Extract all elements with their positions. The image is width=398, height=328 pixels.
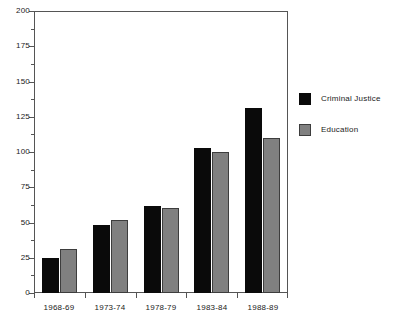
bar-criminal-justice bbox=[144, 206, 161, 293]
bar-criminal-justice bbox=[42, 258, 59, 293]
legend-label: Criminal Justice bbox=[321, 94, 381, 104]
bar-criminal-justice bbox=[93, 225, 110, 293]
bar-education bbox=[111, 220, 128, 293]
bar-education bbox=[162, 208, 179, 293]
bar-education bbox=[212, 152, 229, 293]
y-axis-minor-tick bbox=[31, 205, 34, 206]
y-axis-tick-label: 125 bbox=[0, 113, 30, 121]
bar-education bbox=[60, 249, 77, 293]
y-axis-minor-tick bbox=[31, 29, 34, 30]
x-axis-tick bbox=[237, 293, 238, 298]
legend-swatch-icon bbox=[299, 93, 311, 105]
y-axis-tick-label: 100 bbox=[0, 148, 30, 156]
y-axis-minor-tick bbox=[31, 99, 34, 100]
y-axis-minor-tick bbox=[31, 240, 34, 241]
x-axis-tick bbox=[186, 293, 187, 298]
x-axis-tick bbox=[136, 293, 137, 298]
x-axis-tick bbox=[287, 293, 288, 298]
bar-criminal-justice bbox=[194, 148, 211, 293]
y-axis-tick-label: 200 bbox=[0, 7, 30, 15]
y-axis-tick-label: 75 bbox=[0, 183, 30, 191]
bar-education bbox=[263, 138, 280, 293]
y-axis-minor-tick bbox=[31, 64, 34, 65]
x-axis-tick bbox=[85, 293, 86, 298]
y-axis-minor-tick bbox=[31, 134, 34, 135]
y-axis-minor-tick bbox=[31, 275, 34, 276]
y-axis-minor-tick bbox=[31, 170, 34, 171]
legend-swatch-icon bbox=[299, 124, 311, 136]
legend-label: Education bbox=[321, 125, 358, 135]
y-axis-tick-label: 25 bbox=[0, 254, 30, 262]
bar-chart-figure: 0255075100125150175200 1968-691973-74197… bbox=[0, 0, 398, 328]
y-axis-tick-labels: 0255075100125150175200 bbox=[0, 0, 30, 328]
x-axis-tick-label: 1988-89 bbox=[233, 303, 293, 312]
x-axis-tick bbox=[34, 293, 35, 298]
y-axis-tick-label: 50 bbox=[0, 219, 30, 227]
y-axis-tick-label: 0 bbox=[0, 289, 30, 297]
bar-criminal-justice bbox=[245, 108, 262, 293]
y-axis-tick-label: 150 bbox=[0, 78, 30, 86]
y-axis-tick-label: 175 bbox=[0, 42, 30, 50]
